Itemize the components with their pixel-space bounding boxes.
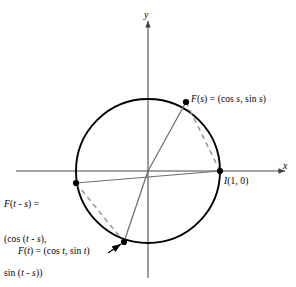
leader-line-f-of-t [108, 244, 121, 253]
point-f-of-t-minus-s [73, 180, 79, 186]
dashed-chord-f-of-t-minus-s-to-f-of-t [76, 183, 124, 242]
radius-to-f-of-t [124, 171, 148, 242]
label-point-i: I(1, 0) [224, 176, 248, 188]
point-f-of-s [183, 99, 189, 105]
label-f-of-t-minus-s-line3: sin (t - s)) [4, 268, 47, 280]
label-f-of-t-minus-s-line2: (cos (t - s), [4, 234, 47, 246]
dashed-chord-f-of-s-to-i [186, 102, 220, 171]
label-f-of-t-minus-s: F(t - s) = (cos (t - s), sin (t - s)) [4, 176, 47, 287]
label-f-of-t: F(t) = (cos t, sin t) [18, 246, 90, 258]
label-f-of-s: F(s) = (cos s, sin s) [191, 94, 266, 106]
point-i [217, 168, 223, 174]
point-f-of-t [121, 239, 127, 245]
radius-to-f-of-s [148, 102, 186, 171]
y-axis-label: y [144, 9, 148, 20]
label-f-of-t-minus-s-line1: F(t - s) = [4, 199, 47, 211]
x-axis-label: x [283, 160, 287, 171]
